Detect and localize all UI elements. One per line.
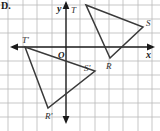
- vertex-label-s-prime: S': [84, 63, 92, 73]
- origin-label: O: [58, 50, 65, 60]
- graph-svg: D. y x O T S R T' S' R': [0, 0, 160, 131]
- coordinate-plane-figure: D. y x O T S R T' S' R': [0, 0, 160, 131]
- vertex-label-r-prime: R': [44, 111, 53, 121]
- vertex-label-s: S: [146, 18, 151, 28]
- y-axis-label: y: [56, 3, 62, 14]
- vertex-label-t-prime: T': [22, 35, 30, 45]
- vertex-label-r: R: [105, 61, 112, 71]
- x-axis-label: x: [145, 49, 151, 60]
- problem-number-label: D.: [1, 0, 11, 11]
